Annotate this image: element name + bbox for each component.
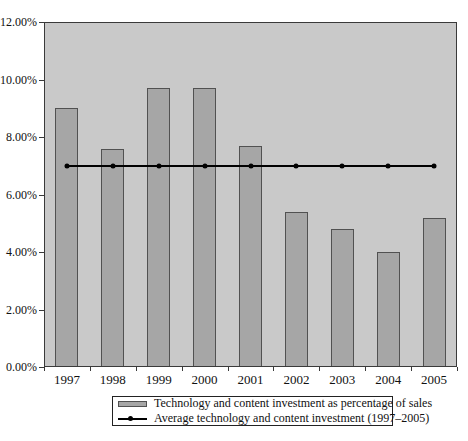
x-axis-tick-mark [273, 367, 274, 371]
x-axis-tick-mark [365, 367, 366, 371]
x-axis-tick-label: 1999 [146, 372, 172, 388]
bar-2003 [331, 229, 354, 366]
x-axis-tick-label: 2000 [192, 372, 218, 388]
y-axis-tick-mark [39, 80, 44, 81]
x-axis-tick-mark [411, 367, 412, 371]
bar-1998 [101, 149, 124, 367]
x-axis-tick-label: 1997 [54, 372, 80, 388]
chart-figure: 0.00%2.00%4.00%6.00%8.00%10.00%12.00% 19… [0, 0, 468, 441]
x-axis-tick-label: 2002 [283, 372, 309, 388]
legend-box: Technology and content investment as per… [112, 396, 393, 426]
y-axis-tick-mark [39, 310, 44, 311]
x-axis-tick-mark [319, 367, 320, 371]
x-axis-tick-mark [457, 367, 458, 371]
average-line-marker [156, 163, 161, 168]
average-line-marker [432, 163, 437, 168]
average-line-marker [248, 163, 253, 168]
x-axis-tick-label: 1998 [100, 372, 126, 388]
x-axis-tick-label: 2001 [238, 372, 264, 388]
average-line-marker [110, 163, 115, 168]
bar-2005 [423, 218, 446, 367]
y-axis-tick-mark [39, 195, 44, 196]
legend-item-label: Technology and content investment as per… [154, 397, 432, 410]
legend-line-dot-swatch-icon [118, 415, 147, 422]
legend-item: Technology and content investment as per… [118, 397, 386, 410]
bar-2002 [285, 212, 308, 366]
average-line-marker [64, 163, 69, 168]
average-line-marker [386, 163, 391, 168]
x-axis-tick-mark [136, 367, 137, 371]
x-axis-tick-label: 2005 [421, 372, 447, 388]
x-axis-tick-mark [44, 367, 45, 371]
y-axis-tick-mark [39, 22, 44, 23]
legend-item: Average technology and content investmen… [118, 412, 386, 425]
x-axis-tick-label: 2004 [375, 372, 401, 388]
x-axis-tick-mark [90, 367, 91, 371]
bar-1999 [147, 88, 170, 366]
y-axis-tick-label: 8.00% [0, 130, 37, 145]
y-axis-tick-label: 4.00% [0, 245, 37, 260]
y-axis-tick-mark [39, 252, 44, 253]
average-line-marker [202, 163, 207, 168]
y-axis-tick-label: 10.00% [0, 72, 37, 87]
x-axis-tick-mark [182, 367, 183, 371]
y-axis-tick-mark [39, 137, 44, 138]
legend-bar-swatch-icon [118, 401, 147, 407]
average-line-marker [294, 163, 299, 168]
bar-2001 [239, 146, 262, 366]
bar-2000 [193, 88, 216, 366]
y-axis-tick-label: 0.00% [0, 360, 37, 375]
x-axis-tick-mark [228, 367, 229, 371]
y-axis-tick-label: 2.00% [0, 302, 37, 317]
bar-2004 [377, 252, 400, 366]
y-axis-tick-label: 12.00% [0, 15, 37, 30]
x-axis-tick-label: 2003 [329, 372, 355, 388]
bar-1997 [55, 108, 78, 366]
y-axis-tick-label: 6.00% [0, 187, 37, 202]
legend-item-label: Average technology and content investmen… [154, 412, 429, 425]
average-line-marker [340, 163, 345, 168]
